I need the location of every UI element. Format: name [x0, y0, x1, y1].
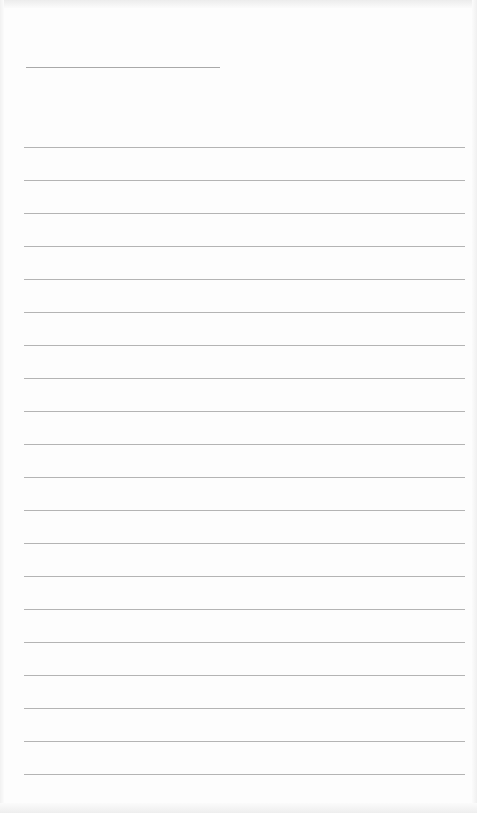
ruled-line	[24, 312, 465, 313]
ruled-line	[24, 609, 465, 610]
ruled-line	[24, 741, 465, 742]
page-bottom-edge	[0, 803, 477, 813]
ruled-line	[24, 510, 465, 511]
ruled-line	[24, 774, 465, 775]
ruled-line	[24, 246, 465, 247]
ruled-line	[24, 675, 465, 676]
ruled-line	[24, 180, 465, 181]
page-right-edge	[472, 0, 477, 813]
ruled-line	[24, 444, 465, 445]
ruled-line	[24, 213, 465, 214]
ruled-line	[24, 279, 465, 280]
page-left-edge	[0, 0, 4, 813]
ruled-line	[24, 147, 465, 148]
ruled-line	[24, 411, 465, 412]
page-top-edge	[0, 0, 477, 8]
ruled-line	[24, 477, 465, 478]
ruled-line	[24, 543, 465, 544]
ruled-line	[24, 642, 465, 643]
ruled-line	[24, 378, 465, 379]
ruled-line	[24, 708, 465, 709]
title-line	[26, 67, 220, 68]
ruled-line	[24, 345, 465, 346]
ruled-line	[24, 576, 465, 577]
